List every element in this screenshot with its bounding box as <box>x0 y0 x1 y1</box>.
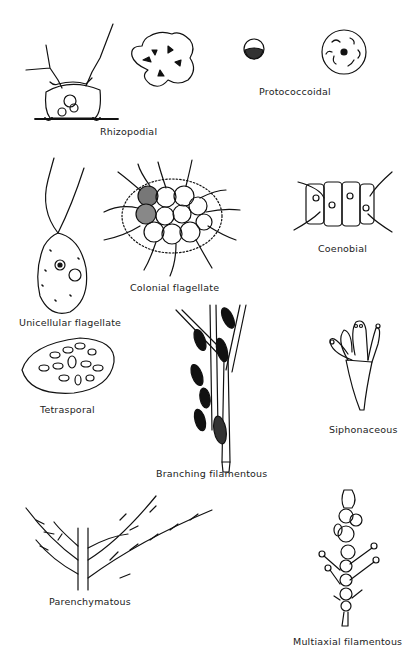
label-unicellular-flagellate: Unicellular flagellate <box>19 317 121 328</box>
colonial-flagellate-drawing <box>104 160 240 276</box>
tetrasporal-drawing <box>22 338 114 393</box>
parenchymatous-drawing <box>26 496 212 590</box>
multiaxial-filamentous-drawing <box>319 490 379 626</box>
unicellular-flagellate-drawing <box>38 158 87 313</box>
label-tetrasporal: Tetrasporal <box>40 404 95 415</box>
protococcoid-cells-drawing <box>244 30 366 74</box>
branching-filamentous-drawing <box>176 305 246 472</box>
rhizopodial-drawing <box>26 24 118 120</box>
algal-forms-illustration <box>0 0 416 658</box>
siphonaceous-drawing <box>330 321 380 410</box>
label-parenchymatous: Parenchymatous <box>49 596 131 607</box>
label-colonial-flagellate: Colonial flagellate <box>130 282 219 293</box>
coenobial-drawing <box>294 172 392 232</box>
label-multiaxial-filamentous: Multiaxial filamentous <box>293 636 402 647</box>
amoeboid-cell-drawing <box>132 32 194 86</box>
label-protococcoidal: Protococcoidal <box>259 86 331 97</box>
label-branching-filamentous: Branching filamentous <box>156 468 268 479</box>
label-siphonaceous: Siphonaceous <box>329 424 398 435</box>
label-rhizopodial: Rhizopodial <box>100 126 157 137</box>
label-coenobial: Coenobial <box>318 243 367 254</box>
